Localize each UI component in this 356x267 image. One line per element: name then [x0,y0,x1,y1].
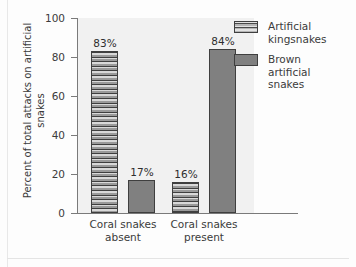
x-axis-label-coral-absent: Coral snakes absent [83,218,163,243]
bar-kingsnakes-present [172,182,199,213]
legend-label-brown-snakes: Brown artificial snakes [268,53,310,91]
y-axis-tick-40 [71,135,77,136]
x-axis-line [77,213,298,214]
bar-value-kingsnakes-absent: 83% [86,38,124,49]
legend-swatch-solid-icon [234,54,258,66]
figure-bottom-rule [7,258,349,259]
bar-chart-figure: 100 80 60 40 20 0 Percent of total attac… [0,0,356,267]
y-axis-tick-80 [71,57,77,58]
y-axis-label-0: 0 [58,208,65,218]
bar-brown-present [209,49,236,213]
bar-value-brown-absent: 17% [123,167,161,178]
y-axis-tick-60 [71,96,77,97]
x-axis-label-coral-present: Coral snakes present [164,218,244,243]
y-axis-title: Percent of total attacks on artificial s… [22,11,47,211]
y-axis-tick-100 [71,18,77,19]
bar-kingsnakes-absent [91,51,118,213]
legend-item-kingsnakes: Artificial kingsnakes [234,20,327,45]
y-axis-tick-20 [71,174,77,175]
y-axis-line [77,18,78,214]
figure-left-rule [7,0,8,267]
y-axis-label-60: 60 [52,91,65,101]
y-axis-label-80: 80 [52,52,65,62]
legend-item-brown-snakes: Brown artificial snakes [234,53,310,91]
y-axis-label-20: 20 [52,169,65,179]
legend-swatch-striped-icon [234,21,258,33]
bar-value-kingsnakes-present: 16% [167,169,205,180]
y-axis-label-40: 40 [52,130,65,140]
y-axis-label-100: 100 [45,13,65,23]
y-axis-tick-0 [71,213,77,214]
bar-brown-absent [128,180,155,213]
legend-label-kingsnakes: Artificial kingsnakes [268,20,327,45]
